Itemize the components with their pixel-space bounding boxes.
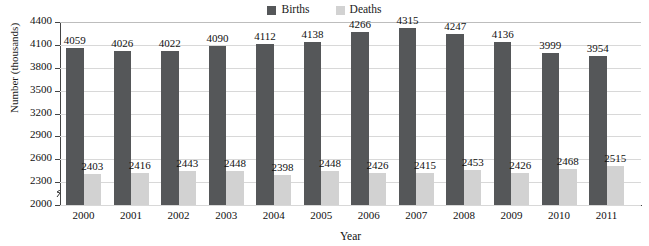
y-axis-tick-label: 2600 — [30, 152, 52, 163]
y-axis-tick: 2300 — [55, 182, 60, 183]
x-axis-label-2008: 2008 — [444, 210, 484, 221]
bar-deaths-2001 — [131, 173, 149, 205]
y-axis-title: Number (thousands) — [8, 3, 20, 133]
chart-figure: Births Deaths Number (thousands) 2000230… — [0, 0, 649, 246]
bar-births-2006 — [351, 32, 369, 205]
axis-break-icon — [56, 190, 65, 199]
y-axis-tick: 3200 — [55, 114, 60, 115]
bar-label-births-2011: 3954 — [583, 43, 613, 54]
bar-deaths-2010 — [559, 169, 577, 205]
y-axis-tick: 2600 — [55, 159, 60, 160]
bar-label-births-2007: 4315 — [393, 15, 423, 26]
bar-label-deaths-2001: 2416 — [125, 160, 155, 171]
x-axis-label-2005: 2005 — [301, 210, 341, 221]
x-axis-label-2006: 2006 — [349, 210, 389, 221]
y-axis-tick-label: 3200 — [30, 107, 52, 118]
bar-deaths-2002 — [179, 171, 197, 205]
y-axis-tick: 4400 — [55, 22, 60, 23]
legend-swatch-deaths — [336, 6, 345, 15]
x-axis-label-2011: 2011 — [587, 210, 627, 221]
bar-births-2007 — [399, 28, 417, 205]
gridline — [60, 205, 641, 206]
x-axis-label-2001: 2001 — [111, 210, 151, 221]
bar-births-2005 — [304, 42, 322, 205]
y-axis-tick-label: 4100 — [30, 38, 52, 49]
plot-area: 200023002600290032003500380041004400 405… — [60, 22, 641, 205]
y-axis-tick: 3500 — [55, 91, 60, 92]
y-axis-tick-label: 4400 — [30, 15, 52, 26]
x-axis-label-2003: 2003 — [206, 210, 246, 221]
bar-births-2002 — [161, 51, 179, 205]
bar-deaths-2007 — [416, 173, 434, 205]
bar-deaths-2008 — [464, 170, 482, 205]
bar-label-deaths-2009: 2426 — [505, 160, 535, 171]
chart-legend: Births Deaths — [0, 1, 649, 19]
bar-births-2004 — [256, 44, 274, 205]
bar-label-deaths-2007: 2415 — [410, 160, 440, 171]
y-axis-tick-label: 3500 — [30, 84, 52, 95]
legend-entry-deaths: Deaths — [336, 4, 382, 16]
x-axis-label-2010: 2010 — [539, 210, 579, 221]
bar-label-deaths-2000: 2403 — [78, 161, 108, 172]
bar-births-2001 — [114, 51, 132, 205]
bar-deaths-2004 — [274, 175, 292, 205]
bar-label-deaths-2004: 2398 — [268, 162, 298, 173]
bar-label-births-2002: 4022 — [155, 38, 185, 49]
legend-label-deaths: Deaths — [350, 4, 382, 16]
bar-label-deaths-2011: 2515 — [601, 153, 631, 164]
bar-births-2008 — [446, 34, 464, 205]
y-axis-tick-label: 3800 — [30, 61, 52, 72]
x-axis-label-2000: 2000 — [64, 210, 104, 221]
legend-entry-births: Births — [267, 4, 309, 16]
bar-deaths-2000 — [84, 174, 102, 205]
bar-label-deaths-2006: 2426 — [363, 160, 393, 171]
bar-deaths-2009 — [511, 173, 529, 205]
bar-deaths-2006 — [369, 173, 387, 205]
bar-label-births-2003: 4090 — [203, 33, 233, 44]
y-axis-tick-label: 2900 — [30, 129, 52, 140]
bar-label-deaths-2002: 2443 — [173, 158, 203, 169]
x-axis-title: Year — [60, 230, 641, 242]
bar-label-births-2001: 4026 — [108, 38, 138, 49]
bar-births-2009 — [494, 42, 512, 205]
bar-label-births-2006: 4266 — [345, 19, 375, 30]
y-axis-tick-label: 2300 — [30, 175, 52, 186]
bar-label-births-2010: 3999 — [536, 40, 566, 51]
x-axis-label-2007: 2007 — [396, 210, 436, 221]
y-axis-tick: 3800 — [55, 68, 60, 69]
x-axis-label-2009: 2009 — [491, 210, 531, 221]
bar-label-births-2000: 4059 — [60, 35, 90, 46]
bar-births-2010 — [542, 53, 560, 205]
bar-label-deaths-2010: 2468 — [553, 156, 583, 167]
x-axis-label-2004: 2004 — [254, 210, 294, 221]
legend-swatch-births — [267, 6, 276, 15]
x-axis-label-2002: 2002 — [159, 210, 199, 221]
y-axis-tick: 2900 — [55, 136, 60, 137]
bar-label-deaths-2005: 2448 — [315, 158, 345, 169]
y-axis-tick: 2000 — [55, 205, 60, 206]
bar-births-2011 — [589, 56, 607, 205]
bar-label-births-2009: 4136 — [488, 29, 518, 40]
bar-label-births-2005: 4138 — [298, 29, 328, 40]
bar-deaths-2011 — [607, 166, 625, 205]
bar-deaths-2003 — [226, 171, 244, 205]
bar-label-births-2004: 4112 — [250, 31, 280, 42]
bar-label-deaths-2008: 2453 — [458, 157, 488, 168]
bar-label-deaths-2003: 2448 — [220, 158, 250, 169]
bar-label-births-2008: 4247 — [440, 21, 470, 32]
bar-deaths-2005 — [321, 171, 339, 205]
bar-births-2003 — [209, 46, 227, 205]
legend-label-births: Births — [281, 4, 309, 16]
bar-births-2000 — [66, 48, 84, 205]
y-axis-tick-label: 2000 — [30, 198, 52, 209]
